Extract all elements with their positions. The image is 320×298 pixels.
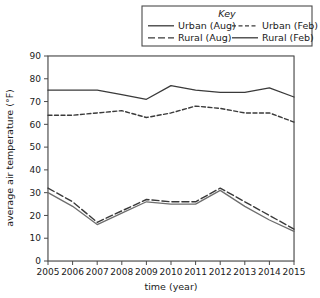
line-chart: 0102030405060708090 20052006200720082009… xyxy=(0,0,320,298)
x-axis-title-label: time (year) xyxy=(144,281,197,292)
y-tick-label: 60 xyxy=(30,120,42,130)
y-tick-label: 10 xyxy=(30,233,42,243)
x-axis-tick-labels: 2005200620072008200920102011201220132014… xyxy=(37,267,306,277)
x-tick-label: 2009 xyxy=(135,267,158,277)
x-tick-label: 2014 xyxy=(258,267,281,277)
x-tick-label: 2005 xyxy=(37,267,60,277)
legend-label: Rural (Aug) xyxy=(178,32,232,43)
legend: Key Urban (Aug)Urban (Feb)Rural (Aug)Rur… xyxy=(142,6,318,46)
y-tick-label: 90 xyxy=(30,51,42,61)
y-axis-title: average air temperature (°F) xyxy=(4,89,15,227)
x-tick-label: 2013 xyxy=(233,267,256,277)
x-tick-label: 2006 xyxy=(61,267,84,277)
x-tick-label: 2011 xyxy=(184,267,207,277)
x-tick-label: 2010 xyxy=(160,267,183,277)
y-axis-title-label: average air temperature (°F) xyxy=(4,89,15,227)
y-tick-label: 30 xyxy=(30,188,42,198)
x-axis-title: time (year) xyxy=(144,281,197,292)
legend-label: Urban (Feb) xyxy=(262,20,318,31)
y-tick-label: 80 xyxy=(30,74,42,84)
y-tick-label: 50 xyxy=(30,142,42,152)
plot-area-frame xyxy=(48,56,294,261)
y-tick-label: 0 xyxy=(35,256,41,266)
y-tick-label: 70 xyxy=(30,97,42,107)
legend-label: Rural (Feb) xyxy=(262,32,314,43)
y-tick-label: 40 xyxy=(30,165,42,175)
x-tick-label: 2012 xyxy=(209,267,232,277)
x-tick-label: 2008 xyxy=(110,267,133,277)
legend-title: Key xyxy=(218,8,236,19)
x-tick-label: 2007 xyxy=(86,267,109,277)
legend-label: Urban (Aug) xyxy=(178,20,236,31)
x-tick-label: 2015 xyxy=(283,267,306,277)
y-tick-label: 20 xyxy=(30,211,42,221)
